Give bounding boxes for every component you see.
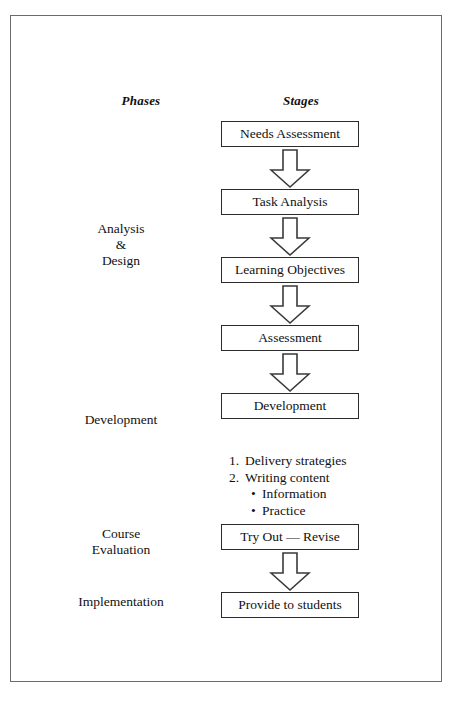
list-item: •Practice [229, 503, 347, 520]
bullet-icon: • [251, 486, 262, 503]
arrow-down-icon [269, 149, 311, 189]
list-item-label: Delivery strategies [245, 453, 347, 468]
list-item-marker: 1. [229, 453, 245, 470]
stage-box-task-analysis[interactable]: Task Analysis [221, 189, 359, 215]
phase-label-implementation: Implementation [46, 594, 196, 610]
phase-label-course-evaluation: Course Evaluation [46, 526, 196, 558]
diagram-frame: Phases Stages Analysis & Design Developm… [10, 15, 442, 682]
list-item-label: Information [262, 486, 326, 501]
list-item: •Information [229, 486, 347, 503]
column-header-stages: Stages [236, 93, 366, 109]
arrow-down-icon [269, 552, 311, 592]
phase-label-development: Development [46, 412, 196, 428]
arrow-down-icon [269, 285, 311, 325]
phase-label-analysis-design: Analysis & Design [46, 221, 196, 269]
column-header-phases: Phases [86, 93, 196, 109]
stage-box-try-out-revise[interactable]: Try Out — Revise [221, 524, 359, 550]
list-item-label: Writing content [245, 470, 330, 485]
development-sub-list: 1.Delivery strategies 2.Writing content … [229, 453, 347, 519]
arrow-down-icon [269, 217, 311, 257]
bullet-icon: • [251, 503, 262, 520]
stage-box-development[interactable]: Development [221, 393, 359, 419]
stage-box-learning-objectives[interactable]: Learning Objectives [221, 257, 359, 283]
list-item: 2.Writing content [229, 470, 347, 487]
list-item: 1.Delivery strategies [229, 453, 347, 470]
list-item-label: Practice [262, 503, 305, 518]
stage-box-provide-to-students[interactable]: Provide to students [221, 592, 359, 618]
stage-box-needs-assessment[interactable]: Needs Assessment [221, 121, 359, 147]
arrow-down-icon [269, 353, 311, 393]
list-item-marker: 2. [229, 470, 245, 487]
stage-box-assessment[interactable]: Assessment [221, 325, 359, 351]
